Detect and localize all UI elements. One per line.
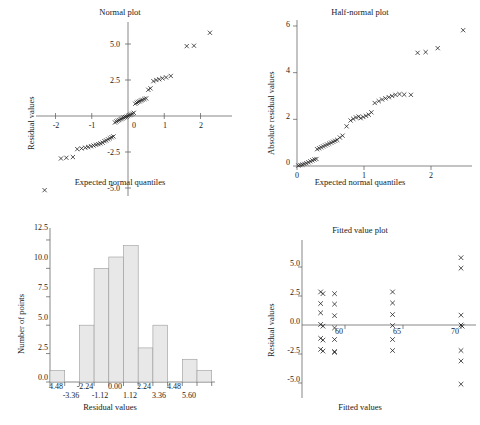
normal-plot-point [59, 156, 63, 160]
half-normal-plot-canvas [240, 0, 480, 212]
panel-histogram-plot: Number of points Residual values 12.5 10… [0, 212, 240, 425]
half-normal-plot-point [387, 95, 391, 99]
fitted-value-plot-point [390, 348, 395, 353]
histogram-bar [50, 371, 65, 382]
fitted-value-plot-point [318, 336, 323, 341]
normal-plot-point [86, 145, 90, 149]
normal-plot-point [71, 155, 75, 159]
fitted-value-plot-point [460, 324, 465, 329]
fitted-value-plot-point [332, 337, 337, 342]
half-normal-plot-point [383, 96, 387, 100]
fitted-value-plot-point [390, 323, 395, 328]
fitted-value-plot-point [318, 301, 323, 306]
histogram-bar [94, 268, 109, 382]
panel-half-normal-plot: Half-normal plot Absolute residual value… [240, 0, 480, 212]
normal-plot-point [185, 44, 189, 48]
fitted-value-plot-point [390, 312, 395, 317]
panel-fitted-value-plot: Fitted value plot Residual values Fitted… [240, 212, 480, 425]
fitted-value-plot-point [390, 301, 395, 306]
normal-plot-point [160, 76, 164, 80]
half-normal-plot-point [338, 135, 342, 139]
histogram-bar [153, 325, 168, 382]
half-normal-plot-point [409, 93, 413, 97]
fitted-value-plot-point [318, 347, 323, 352]
half-normal-plot-point [369, 110, 373, 114]
normal-plot-point [169, 74, 173, 78]
fitted-value-plot-point [459, 313, 464, 318]
half-normal-plot-point [461, 28, 465, 32]
fitted-value-plot-point [390, 290, 395, 295]
histogram-bar [197, 371, 212, 382]
half-normal-plot-point [436, 46, 440, 50]
histogram-bar [109, 257, 124, 382]
fitted-value-plot-canvas [240, 212, 480, 425]
half-normal-plot-point [373, 101, 377, 105]
fitted-value-plot-point [459, 359, 464, 364]
fitted-value-plot-point [459, 348, 464, 353]
histogram-plot-canvas [0, 212, 240, 425]
fitted-value-plot-point [459, 266, 464, 271]
normal-plot-point [148, 86, 152, 90]
half-normal-plot-point [424, 50, 428, 54]
normal-plot-point [64, 156, 68, 160]
fitted-value-plot-point [332, 349, 337, 354]
fitted-value-plot-point [332, 291, 337, 296]
fitted-value-plot-point [332, 313, 337, 318]
fitted-value-plot-point [332, 350, 337, 355]
histogram-bar [79, 325, 94, 382]
half-normal-plot-point [402, 93, 406, 97]
fitted-value-plot-point [321, 291, 326, 296]
histogram-bar [124, 246, 139, 382]
normal-plot-point [80, 146, 84, 150]
normal-plot-point [75, 147, 79, 151]
half-normal-plot-point [393, 93, 397, 97]
fitted-value-plot-point [321, 324, 326, 329]
normal-plot-point [208, 31, 212, 35]
normal-plot-canvas [0, 0, 240, 212]
fitted-value-plot-point [332, 326, 337, 331]
normal-plot-point [83, 146, 87, 150]
half-normal-plot-point [397, 92, 401, 96]
fitted-value-plot-point [321, 349, 326, 354]
figure-page: { "figure": { "panels": [ { "id": "norma… [0, 0, 480, 425]
fitted-value-plot-point [459, 255, 464, 260]
normal-plot-point [157, 77, 161, 81]
fitted-value-plot-point [459, 382, 464, 387]
half-normal-plot-point [416, 51, 420, 55]
histogram-bar [182, 359, 197, 382]
normal-plot-point [164, 75, 168, 79]
fitted-value-plot-point [318, 311, 323, 316]
half-normal-plot-point [390, 94, 394, 98]
fitted-value-plot-point [321, 338, 326, 343]
fitted-value-plot-point [318, 322, 323, 327]
fitted-value-plot-point [318, 290, 323, 295]
fitted-value-plot-point [332, 302, 337, 307]
normal-plot-point [43, 188, 47, 192]
normal-plot-point [146, 88, 150, 92]
fitted-value-plot-point [390, 337, 395, 342]
normal-plot-point [192, 44, 196, 48]
histogram-bar [138, 348, 153, 382]
panel-normal-plot: Normal plot Residual values Expected nor… [0, 0, 240, 212]
half-normal-plot-point [344, 124, 348, 128]
half-normal-plot-point [340, 134, 344, 138]
